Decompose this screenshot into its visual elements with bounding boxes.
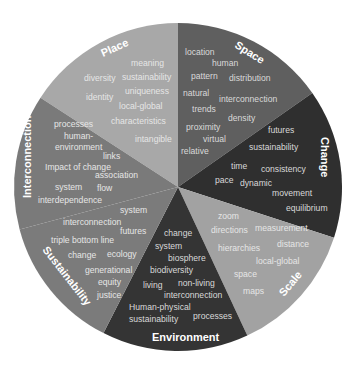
term: measurement (255, 223, 308, 233)
term: change (164, 228, 192, 238)
term: processes (193, 311, 232, 321)
term: system (55, 182, 82, 192)
term: pace (215, 175, 234, 185)
term: system (155, 241, 182, 251)
term: association (95, 170, 138, 180)
term: futures (268, 125, 294, 135)
term: interconnection (164, 290, 223, 300)
term: trends (192, 104, 216, 114)
term: links (103, 151, 120, 161)
term: diversity (84, 73, 116, 83)
segment-title-interconnection: Interconnection (21, 115, 33, 198)
term: location (185, 47, 215, 57)
term: biosphere (168, 253, 206, 263)
term: interconnection (219, 94, 278, 104)
term: time (231, 161, 247, 171)
term: density (228, 113, 256, 123)
term: sustainability (129, 314, 179, 324)
term: living (143, 280, 163, 290)
term: equilibrium (286, 203, 328, 213)
term: change (68, 250, 96, 260)
term: local-global (256, 256, 300, 266)
term: ecology (107, 249, 137, 259)
term: sustainability (122, 72, 172, 82)
term: uniqueness (125, 86, 169, 96)
term: generational (85, 265, 132, 275)
term: pattern (191, 71, 218, 81)
term: proximity (186, 122, 221, 132)
term: maps (243, 286, 264, 296)
term: interconnection (63, 217, 122, 227)
term: system (120, 205, 147, 215)
term: movement (272, 188, 313, 198)
term: zoom (218, 211, 239, 221)
term: flow (97, 183, 113, 193)
term: distribution (229, 73, 271, 83)
term: environment (55, 142, 103, 152)
term: human (212, 58, 238, 68)
term: characteristics (111, 116, 166, 126)
term: human- (64, 131, 93, 141)
term: equity (98, 277, 122, 287)
term: relative (181, 146, 209, 156)
term: biodiversity (150, 265, 194, 275)
term: Human-physical (129, 302, 191, 312)
term: justice (96, 290, 122, 300)
term: processes (54, 119, 93, 129)
segment-title-change: Change (319, 137, 331, 177)
term: sustainability (249, 142, 299, 152)
term: consistency (261, 164, 307, 174)
term: space (234, 269, 257, 279)
term: distance (277, 239, 309, 249)
term: meaning (131, 58, 164, 68)
segment-title-environment: Environment (152, 331, 220, 343)
term: triple bottom line (51, 235, 114, 245)
term: local-global (119, 101, 163, 111)
term: identity (86, 92, 114, 102)
term: non-living (178, 278, 215, 288)
term: natural (183, 88, 209, 98)
term: intangible (135, 134, 172, 144)
term: hierarchies (218, 243, 260, 253)
term: virtual (203, 134, 226, 144)
concept-wheel: Place meaning diversity sustainability i… (0, 0, 354, 367)
term: directions (211, 225, 248, 235)
term: interdependence (38, 195, 102, 205)
term: dynamic (240, 178, 273, 188)
term: futures (120, 226, 146, 236)
